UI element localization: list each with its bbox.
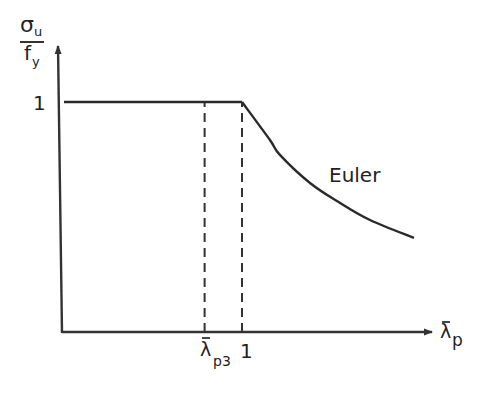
euler-label: Euler <box>329 163 381 187</box>
diagram: σ u f y λ p 1 λ p3 1 Euler <box>0 0 496 395</box>
y-axis <box>58 46 62 333</box>
y-tick-label: 1 <box>33 91 46 115</box>
y-label-denominator-sub: y <box>32 54 40 69</box>
y-label-denominator: f <box>24 41 32 65</box>
x-label-sub: p <box>452 330 463 350</box>
y-axis-label: σ u f y <box>20 12 44 69</box>
x-label-symbol: λ <box>440 320 451 342</box>
series-euler <box>242 102 414 238</box>
y-label-numerator: σ <box>20 12 34 37</box>
x-tick-lambda-p3: λ p3 <box>200 338 231 369</box>
x-tick-label-symbol: λ <box>200 338 211 360</box>
y-label-numerator-sub: u <box>34 24 42 39</box>
x-axis-label: λ p <box>440 320 463 350</box>
x-tick-label-one: 1 <box>240 339 253 363</box>
x-tick-label-sub: p3 <box>213 353 231 369</box>
